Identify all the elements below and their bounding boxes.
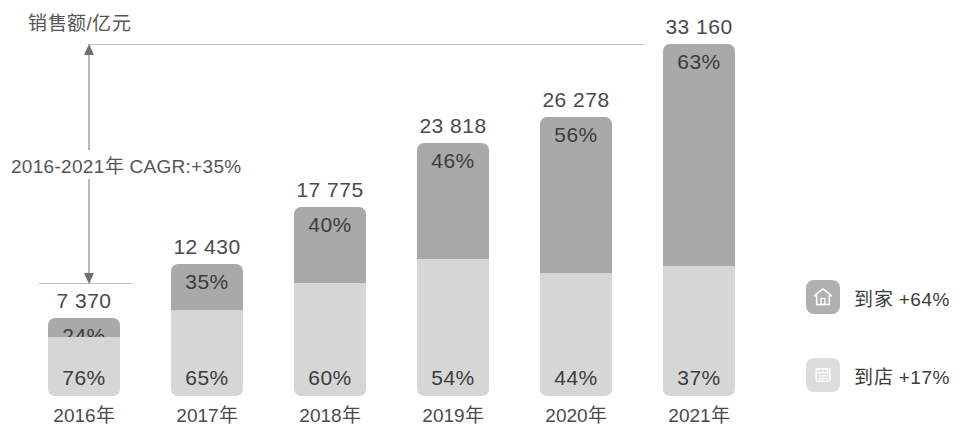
cagr-annotation: 2016-2021年 CAGR:+35% <box>8 150 244 179</box>
legend-label-to-home: 到家 +64% <box>854 284 950 311</box>
x-axis-label-2017年: 2017年 <box>137 400 277 427</box>
x-axis-label-2016年: 2016年 <box>14 400 154 427</box>
x-axis-label-2021年: 2021年 <box>629 400 769 427</box>
bar-2020年: 56%44% <box>540 117 612 396</box>
bar-segment-to-store: 44% <box>540 273 612 396</box>
segment-label-to-home: 35% <box>171 270 243 294</box>
bar-2018年: 40%60% <box>294 207 366 396</box>
segment-label-to-home: 56% <box>540 123 612 147</box>
reference-line-top <box>88 44 644 45</box>
bar-total-label: 23 818 <box>383 114 523 138</box>
x-axis-label-2020年: 2020年 <box>506 400 646 427</box>
segment-label-to-store: 44% <box>540 366 612 390</box>
bar-2021年: 63%37% <box>663 44 735 396</box>
y-axis-title: 销售额/亿元 <box>28 8 131 35</box>
bar-total-label: 33 160 <box>629 15 769 39</box>
x-axis-label-2019年: 2019年 <box>383 400 523 427</box>
legend-item-to-home[interactable]: 到家 +64% <box>806 280 950 314</box>
bar-total-label: 7 370 <box>14 289 154 313</box>
bar-2017年: 35%65% <box>171 264 243 396</box>
home-icon <box>806 280 840 314</box>
bar-segment-to-home: 40% <box>294 207 366 283</box>
segment-label-to-home: 46% <box>417 149 489 173</box>
segment-label-to-home: 63% <box>663 50 735 74</box>
bar-segment-to-store: 37% <box>663 266 735 396</box>
x-axis-label-2018年: 2018年 <box>260 400 400 427</box>
bar-total-label: 26 278 <box>506 88 646 112</box>
bar-segment-to-store: 60% <box>294 283 366 396</box>
bar-2019年: 46%54% <box>417 143 489 396</box>
segment-label-to-store: 76% <box>48 366 120 390</box>
segment-label-to-store: 37% <box>663 366 735 390</box>
bar-segment-to-store: 65% <box>171 310 243 396</box>
chart-container: 销售额/亿元 2016-2021年 CAGR:+35% 24%76%7 3703… <box>0 0 971 431</box>
bar-segment-to-store: 76% <box>48 337 120 396</box>
segment-label-to-home: 40% <box>294 213 366 237</box>
bar-segment-to-home: 24% <box>48 318 120 337</box>
legend-item-to-store[interactable]: 到店 +17% <box>806 358 950 392</box>
bar-2016年: 24%76% <box>48 318 120 396</box>
bar-segment-to-home: 56% <box>540 117 612 273</box>
bar-total-label: 12 430 <box>137 235 277 259</box>
bar-segment-to-store: 54% <box>417 259 489 396</box>
store-icon <box>806 358 840 392</box>
bar-segment-to-home: 46% <box>417 143 489 259</box>
bar-segment-to-home: 35% <box>171 264 243 310</box>
segment-label-to-store: 65% <box>171 366 243 390</box>
segment-label-to-store: 60% <box>294 366 366 390</box>
bar-total-label: 17 775 <box>260 178 400 202</box>
bar-segment-to-home: 63% <box>663 44 735 266</box>
segment-label-to-store: 54% <box>417 366 489 390</box>
legend-label-to-store: 到店 +17% <box>854 362 950 389</box>
